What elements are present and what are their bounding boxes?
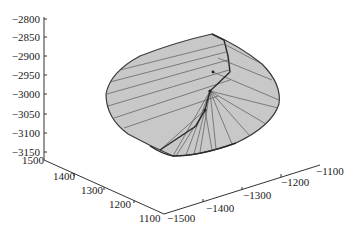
x-tick-label: −1400 [206,202,235,214]
y-tick-label: 1200 [109,198,132,210]
x-tick-label: −1200 [281,176,310,188]
y-tick-label: 1500 [22,154,45,166]
surface-plot: −2800 −2850 −2900 −2950 −3000 −3050 −310… [0,0,349,235]
y-tick-label: 1400 [53,170,76,182]
z-tick-label: −2950 [12,69,41,81]
z-tick-label: −2900 [12,50,41,62]
z-tick-label: −3100 [12,127,41,139]
z-axis: −2800 −2850 −2900 −2950 −3000 −3050 −310… [12,13,47,160]
x-tick-label: −1100 [316,165,344,177]
y-tick-label: 1100 [139,212,161,224]
x-axis: −1500 −1400 −1300 −1200 −1100 [164,165,344,224]
surface [106,34,279,156]
y-tick-label: 1300 [81,184,104,196]
x-tick-label: −1300 [243,189,272,201]
z-tick-label: −3000 [12,88,41,100]
y-axis: 1500 1400 1300 1200 1100 [22,154,164,224]
z-tick-label: −3050 [12,108,41,120]
z-tick-label: −2800 [12,13,41,25]
x-tick-label: −1500 [167,212,196,224]
z-tick-label: −2850 [12,31,41,43]
